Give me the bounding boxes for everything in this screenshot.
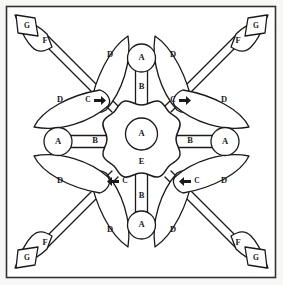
- label-callout-top-right: C: [170, 95, 175, 104]
- label-flag-bottom-left: G: [24, 253, 30, 262]
- label-leaf-top-left-inner: D: [107, 49, 113, 59]
- label-center-body: E: [139, 156, 145, 166]
- label-stem-left: B: [92, 135, 98, 145]
- label-node-right: A: [222, 136, 229, 146]
- label-flag-bottom-right: G: [253, 253, 259, 262]
- label-leaf-bottom-left-inner: D: [107, 224, 113, 234]
- figure-frame: A A A A A E B B B B C C C C D D D D D D …: [0, 0, 283, 285]
- label-callout-top-left: C: [85, 95, 90, 104]
- label-leaf-top-right-outer: D: [221, 94, 227, 104]
- label-flag-top-right: G: [253, 21, 259, 30]
- label-leaf-bottom-left-outer: D: [57, 175, 63, 185]
- label-arrowhead-top-right: F: [235, 35, 240, 45]
- label-leaf-top-right-inner: D: [170, 49, 176, 59]
- label-arrowhead-bottom-right: F: [235, 237, 240, 247]
- label-node-bottom: A: [138, 219, 145, 229]
- label-center-node: A: [138, 128, 145, 138]
- label-node-top: A: [138, 52, 145, 62]
- label-stem-top: B: [139, 81, 145, 91]
- label-leaf-top-left-outer: D: [57, 94, 63, 104]
- label-node-left: A: [55, 136, 62, 146]
- label-callout-bottom-left: C: [122, 176, 127, 185]
- label-callout-bottom-right: C: [194, 176, 199, 185]
- label-arrowhead-top-left: F: [42, 35, 47, 45]
- diagram-canvas: A A A A A E B B B B C C C C D D D D D D …: [0, 0, 283, 285]
- label-stem-right: B: [187, 135, 193, 145]
- label-leaf-bottom-right-inner: D: [170, 224, 176, 234]
- label-leaf-bottom-right-outer: D: [221, 175, 227, 185]
- label-arrowhead-bottom-left: F: [42, 237, 47, 247]
- label-flag-top-left: G: [24, 21, 30, 30]
- label-stem-bottom: B: [139, 190, 145, 200]
